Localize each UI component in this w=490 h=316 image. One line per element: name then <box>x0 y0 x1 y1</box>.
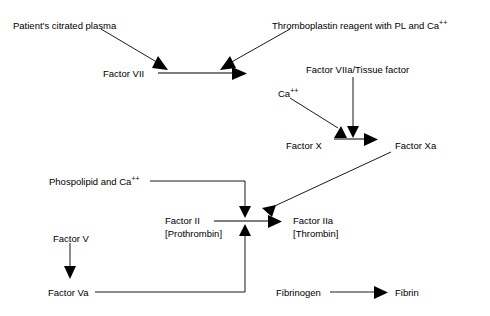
edge-factor-xa-to-factor-ii <box>262 152 391 217</box>
node-label: Fibrin <box>395 287 419 300</box>
node-label: Phospolipid and Ca++ <box>49 176 140 189</box>
edge-factor-ii-to-factor-iia <box>214 215 282 228</box>
edge-factor-vii-activation <box>158 67 247 80</box>
node-label: Thromboplastin reagent with PL and Ca++ <box>272 20 447 33</box>
diagram-edges <box>0 0 490 316</box>
node-label-alias: [Thrombin] <box>293 228 338 241</box>
node-label: Factor VII <box>103 68 144 81</box>
edge-phospholipid-to-factor-ii <box>150 181 251 218</box>
node-factor-va: Factor Va <box>48 287 88 300</box>
node-label: Fibrinogen <box>276 287 321 300</box>
node-factor-viia-tissue-factor: Factor VIIa/Tissue factor <box>306 64 409 77</box>
superscript-charge: ++ <box>131 175 139 182</box>
node-label: Factor IIa <box>293 215 338 228</box>
node-label: Factor X <box>286 140 322 153</box>
node-factor-xa: Factor Xa <box>395 140 436 153</box>
node-factor-v: Factor V <box>53 233 89 246</box>
superscript-charge: ++ <box>290 87 298 94</box>
node-fibrin: Fibrin <box>395 287 419 300</box>
node-label: Factor Xa <box>395 140 436 153</box>
node-patient-plasma: Patient's citrated plasma <box>13 20 116 33</box>
edge-calcium-to-factor-x <box>290 98 347 138</box>
node-label: Factor Va <box>48 287 88 300</box>
coagulation-cascade-diagram: Patient's citrated plasma Thromboplastin… <box>0 0 490 316</box>
node-phospholipid-calcium: Phospolipid and Ca++ <box>49 176 140 189</box>
node-thromboplastin: Thromboplastin reagent with PL and Ca++ <box>272 20 447 33</box>
node-calcium-ion: Ca++ <box>278 88 298 101</box>
edge-fibrinogen-to-fibrin <box>330 286 388 299</box>
edge-factor-v-to-factor-va <box>64 243 76 279</box>
node-label: Ca++ <box>278 88 298 101</box>
node-label: Factor II <box>165 215 222 228</box>
node-fibrinogen: Fibrinogen <box>276 287 321 300</box>
edge-tissue-factor-to-factor-x <box>347 77 359 138</box>
superscript-charge: ++ <box>439 19 447 26</box>
node-label: Patient's citrated plasma <box>13 20 116 33</box>
node-factor-x: Factor X <box>286 140 322 153</box>
node-factor-iia: Factor IIa [Thrombin] <box>293 215 338 240</box>
node-factor-vii: Factor VII <box>103 68 144 81</box>
edge-plasma-to-factor-vii <box>101 29 168 70</box>
node-factor-ii: Factor II [Prothrombin] <box>165 215 222 240</box>
node-label: Factor V <box>53 233 89 246</box>
node-label-alias: [Prothrombin] <box>165 228 222 241</box>
edge-thromboplastin-to-factor-vii <box>220 29 290 70</box>
node-label: Factor VIIa/Tissue factor <box>306 64 409 77</box>
